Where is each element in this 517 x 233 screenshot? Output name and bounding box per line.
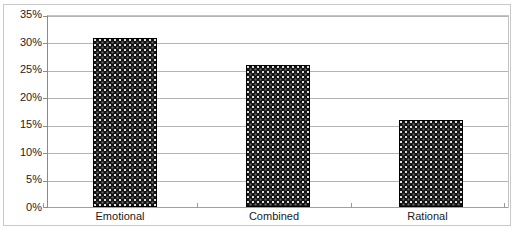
- category-tick-1: [197, 203, 198, 208]
- y-axis-tick-label-10: 10%: [6, 147, 42, 158]
- y-tick-mark-15: [43, 126, 48, 127]
- y-axis-tick-label-5: 5%: [6, 174, 42, 185]
- y-axis-tick-label-30: 30%: [6, 37, 42, 48]
- clipped-title-row: · · · · · · · · ·: [0, 0, 517, 3]
- bar-combined[interactable]: [246, 65, 310, 207]
- chart-frame: 35% 30% 25% 20% 15% 10% 5% 0%: [3, 4, 511, 226]
- y-tick-mark-30: [43, 43, 48, 44]
- y-axis-tick-label-20: 20%: [6, 92, 42, 103]
- y-axis-tick-label-15: 15%: [6, 119, 42, 130]
- category-label-combined: Combined: [197, 210, 351, 223]
- gridline-35: [48, 16, 508, 17]
- y-axis-tick-label-25: 25%: [6, 64, 42, 75]
- y-tick-mark-35: [43, 16, 48, 17]
- category-axis: Emotional Combined Rational: [43, 203, 505, 233]
- y-tick-mark-5: [43, 181, 48, 182]
- y-axis-tick-label-0: 0%: [6, 202, 42, 213]
- bar-rational[interactable]: [399, 120, 463, 207]
- y-tick-mark-10: [43, 153, 48, 154]
- category-tick-2: [351, 203, 352, 208]
- plot-area: [47, 15, 509, 208]
- y-tick-mark-20: [43, 98, 48, 99]
- y-axis-tick-label-35: 35%: [6, 9, 42, 20]
- bar-emotional[interactable]: [93, 38, 157, 207]
- category-tick-3: [504, 203, 505, 208]
- y-axis-labels: 35% 30% 25% 20% 15% 10% 5% 0%: [4, 15, 42, 208]
- category-label-emotional: Emotional: [43, 210, 197, 223]
- category-tick-0: [43, 203, 44, 208]
- category-label-rational: Rational: [351, 210, 504, 223]
- y-tick-mark-25: [43, 71, 48, 72]
- clipped-title-text: · · · · · · · · ·: [96, 0, 426, 3]
